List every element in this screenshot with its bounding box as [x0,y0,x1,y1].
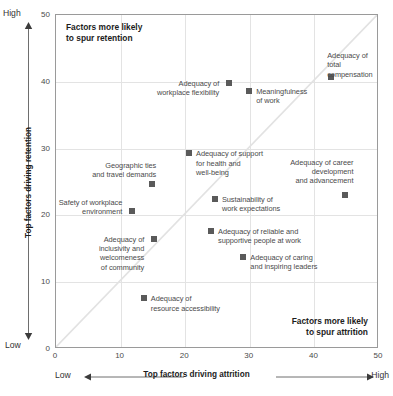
y-tick-10: 10 [34,277,50,286]
y-tick-0: 0 [34,344,50,353]
data-point-label: Adequacy of resource accessibility [151,294,220,313]
data-point-label: Adequacy of career development and advan… [290,158,353,186]
x-tick-50: 50 [374,351,383,360]
data-point-label: Adequacy of total compensation [327,51,377,79]
data-point-label: Safety of workplace environment [59,198,123,217]
data-point-label: Adequacy of reliable and supportive peop… [218,227,301,246]
data-point-marker[interactable] [208,228,214,234]
x-tick-20: 20 [180,351,189,360]
data-point-label: Meaningfulness of work [256,87,307,106]
data-point-marker[interactable] [186,150,192,156]
data-point-marker[interactable] [129,208,135,214]
y-axis-high-label: High [3,8,21,18]
gridline-x-10 [121,15,122,347]
data-point-label: Adequacy of inclusivity and welcomeness … [56,235,144,272]
data-point-label: Adequacy of support for health and well-… [196,149,263,177]
x-tick-10: 10 [115,351,124,360]
data-point-label: Adequacy of workplace flexibility [157,79,219,98]
x-axis-row: Low High Top factors driving attrition [0,368,393,386]
data-point-marker[interactable] [240,254,246,260]
data-point-label: Geographic ties and travel demands [92,161,156,180]
data-point-marker[interactable] [151,236,157,242]
gridline-x-30 [250,15,251,347]
data-point-marker[interactable] [149,181,155,187]
data-point-marker[interactable] [226,80,232,86]
x-tick-30: 30 [244,351,253,360]
y-axis-low-label: Low [5,340,21,350]
data-point-marker[interactable] [212,196,218,202]
plot-area: Factors more likely to spur retention Fa… [55,14,378,348]
gridline-y-10 [56,282,377,283]
y-tick-40: 40 [34,76,50,85]
y-tick-20: 20 [34,210,50,219]
y-tick-30: 30 [34,143,50,152]
data-point-marker[interactable] [141,295,147,301]
scatter-chart: High Low Top factors driving retention 5… [0,0,393,396]
data-point-marker[interactable] [246,88,252,94]
data-point-label: Adequacy of caring and inspiring leaders [250,253,317,272]
data-point-label: Sustainability of work expectations [222,195,280,214]
x-tick-40: 40 [309,351,318,360]
x-axis-title: Top factors driving attrition [0,370,393,379]
x-tick-0: 0 [53,351,57,360]
retention-quadrant-note: Factors more likely to spur retention [66,22,142,44]
y-axis-title: Top factors driving retention [24,108,33,258]
y-tick-50: 50 [34,10,50,19]
attrition-quadrant-note: Factors more likely to spur attrition [292,316,368,338]
data-point-marker[interactable] [342,192,348,198]
